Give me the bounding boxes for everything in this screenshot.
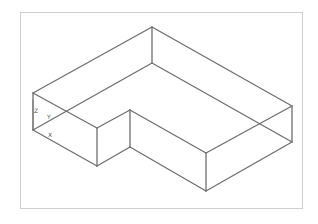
wireframe-drawing: Z Y X [0,0,318,224]
edge [130,147,206,191]
edge [206,106,292,153]
edge [97,147,130,166]
z-axis-label: Z [34,107,38,114]
edge [152,63,292,142]
edge [130,110,206,153]
y-axis-label: Y [46,113,51,120]
edge [33,93,97,128]
edge [33,130,97,166]
edge [33,27,152,93]
edge [97,110,130,128]
x-axis-label: X [48,131,52,138]
edge [33,63,152,130]
solid-edges [33,27,292,191]
edge [152,27,292,106]
edge [206,142,292,191]
